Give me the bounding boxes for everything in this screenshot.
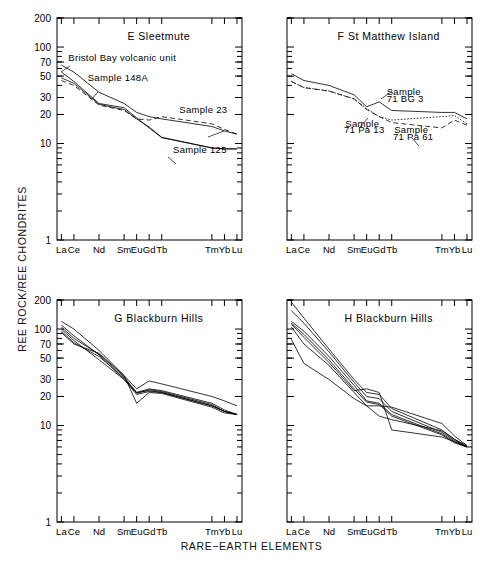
series-line: [61, 331, 237, 414]
x-tick-label: Gd: [373, 526, 386, 537]
y-tick-label: 30: [40, 92, 52, 103]
panel-h: LaCeNdSmEuGdTbTmYbLuH Blackburn Hills: [286, 300, 472, 537]
y-tick-label: 30: [40, 374, 52, 385]
x-tick-label: La: [286, 526, 297, 537]
y-tick-label: 20: [40, 391, 52, 402]
x-tick-label: Sm: [117, 244, 131, 255]
series-line: [61, 321, 237, 405]
x-tick-label: Lu: [462, 244, 473, 255]
x-tick-label: Eu: [361, 526, 373, 537]
panel-f: LaCeNdSmEuGdTbTmYbLuF St Matthew IslandS…: [286, 18, 472, 255]
y-tick-label: 1: [45, 517, 51, 528]
x-axis-title: RARE−EARTH ELEMENTS: [0, 540, 503, 552]
panel-title: H Blackburn Hills: [345, 312, 433, 324]
x-tick-label: Tm: [205, 244, 219, 255]
x-tick-label: Gd: [143, 244, 156, 255]
x-tick-label: Tb: [156, 244, 167, 255]
x-tick-label: Nd: [93, 244, 105, 255]
series-line: [291, 74, 467, 119]
x-tick-label: Lu: [232, 526, 243, 537]
y-tick-label: 50: [40, 71, 52, 82]
panel-title: E Sleetmute: [127, 30, 190, 42]
annotation-label: Sample 148A: [88, 72, 149, 83]
x-tick-label: Yb: [219, 526, 231, 537]
x-tick-label: La: [56, 244, 67, 255]
x-tick-label: Eu: [131, 244, 143, 255]
x-tick-label: Yb: [219, 244, 231, 255]
x-tick-label: Sm: [117, 526, 131, 537]
series-line: [291, 321, 467, 447]
annotation-label: 71 Pa 13: [344, 124, 384, 135]
y-tick-label: 200: [34, 13, 51, 24]
figure-ree-chondrite-panels: REE ROCK/REE CHONDRITES RARE−EARTH ELEME…: [0, 0, 503, 565]
x-tick-label: Gd: [373, 244, 386, 255]
panel-frame: [287, 300, 472, 522]
y-tick-label: 1: [45, 235, 51, 246]
series-line: [61, 329, 237, 414]
x-tick-label: Tb: [386, 526, 397, 537]
x-tick-label: Yb: [449, 244, 461, 255]
y-tick-label: 20: [40, 109, 52, 120]
x-tick-label: Nd: [93, 526, 105, 537]
x-tick-label: Eu: [131, 526, 143, 537]
x-tick-label: Yb: [449, 526, 461, 537]
x-tick-label: Tm: [435, 244, 449, 255]
annotation-label: Sample 23: [179, 104, 227, 115]
x-tick-label: Ce: [68, 244, 80, 255]
x-tick-label: Sm: [347, 244, 361, 255]
annotation-leader: [168, 157, 176, 164]
panel-e: 20010070503020101LaCeNdSmEuGdTbTmYbLuE S…: [34, 13, 242, 255]
x-tick-label: Lu: [462, 526, 473, 537]
x-tick-label: Tm: [205, 526, 219, 537]
panel-frame: [57, 300, 242, 522]
plot-canvas: 20010070503020101LaCeNdSmEuGdTbTmYbLuE S…: [0, 0, 503, 565]
annotation-leader: [92, 92, 98, 99]
x-tick-label: Tb: [156, 526, 167, 537]
panel-title: F St Matthew Island: [338, 30, 440, 42]
y-tick-label: 100: [34, 324, 51, 335]
panel-title: G Blackburn Hills: [114, 312, 203, 324]
x-tick-label: Ce: [298, 244, 310, 255]
annotation-leader: [208, 131, 224, 137]
y-tick-label: 50: [40, 353, 52, 364]
x-tick-label: La: [56, 526, 67, 537]
x-tick-label: Sm: [347, 526, 361, 537]
x-tick-label: Ce: [298, 526, 310, 537]
x-tick-label: Ce: [68, 526, 80, 537]
panel-g: 20010070503020101LaCeNdSmEuGdTbTmYbLuG B…: [34, 295, 242, 537]
x-tick-label: Tb: [386, 244, 397, 255]
series-line: [291, 324, 467, 447]
series-line: [291, 311, 467, 447]
annotation-label: Bristol Bay volcanic unit: [68, 52, 176, 63]
x-tick-label: Tm: [435, 526, 449, 537]
series-line: [61, 333, 237, 415]
y-tick-label: 10: [40, 420, 52, 431]
y-axis-title: REE ROCK/REE CHONDRITES: [16, 159, 28, 379]
series-line: [291, 323, 467, 447]
y-tick-label: 10: [40, 138, 52, 149]
annotation-label: Sample 125: [173, 144, 227, 155]
y-tick-label: 70: [40, 339, 52, 350]
x-tick-label: Eu: [361, 244, 373, 255]
x-tick-label: La: [286, 244, 297, 255]
series-line: [61, 327, 237, 415]
x-tick-label: Lu: [232, 244, 243, 255]
annotation-label: 71 BG 3: [387, 93, 424, 104]
x-tick-label: Nd: [323, 244, 335, 255]
y-tick-label: 200: [34, 295, 51, 306]
x-tick-label: Gd: [143, 526, 156, 537]
x-tick-label: Nd: [323, 526, 335, 537]
y-tick-label: 100: [34, 42, 51, 53]
y-tick-label: 70: [40, 57, 52, 68]
series-line: [61, 325, 237, 414]
